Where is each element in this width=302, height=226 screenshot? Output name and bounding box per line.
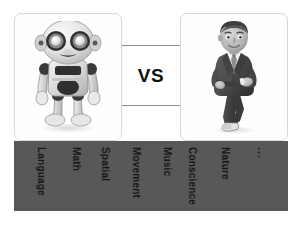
- versus-connector: VS: [122, 45, 180, 106]
- vs-label: VS: [138, 66, 164, 85]
- human-card: [180, 13, 288, 141]
- capability-item-math: Math: [71, 147, 81, 209]
- capability-item-music: Music: [162, 147, 172, 209]
- robot-artwork: [15, 14, 121, 140]
- capability-item-conscience: Conscience: [187, 147, 197, 209]
- capability-item-ellipsis: ...: [256, 147, 267, 209]
- capability-item-movement: Movement: [131, 147, 141, 209]
- robot-card: [14, 13, 122, 141]
- comparison-diagram: VS: [0, 0, 302, 226]
- capability-item-spatial: Spatial: [100, 147, 110, 209]
- capability-list: Language Math Spatial Movement Music Con…: [14, 141, 288, 211]
- businessman-artwork: [181, 14, 287, 140]
- businessman-icon: [192, 19, 276, 135]
- capability-item-language: Language: [36, 147, 46, 209]
- capability-bar: Language Math Spatial Movement Music Con…: [14, 141, 288, 211]
- capability-item-nature: Nature: [220, 147, 230, 209]
- robot-icon: [25, 21, 111, 133]
